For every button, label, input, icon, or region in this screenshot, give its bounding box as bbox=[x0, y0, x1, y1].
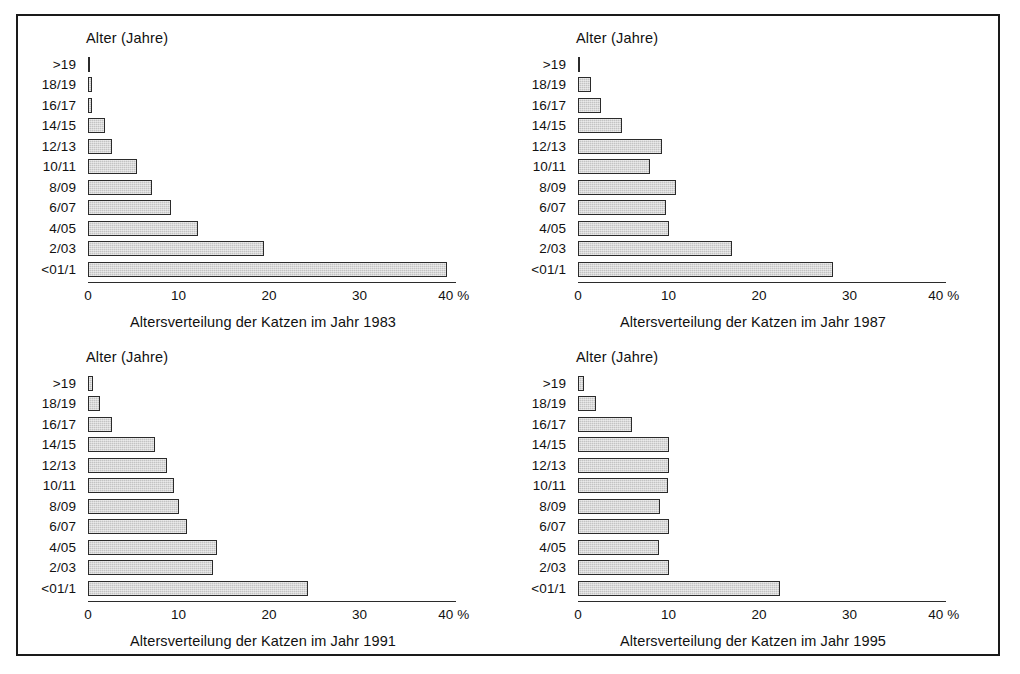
bar-row: 4/05 bbox=[18, 537, 508, 558]
bar-row: 18/19 bbox=[508, 394, 998, 415]
category-label: 10/11 bbox=[18, 160, 76, 174]
category-label: 4/05 bbox=[18, 222, 76, 236]
category-label: 16/17 bbox=[18, 418, 76, 432]
bar-row: 16/17 bbox=[508, 95, 998, 116]
category-label: 6/07 bbox=[18, 520, 76, 534]
bar bbox=[88, 139, 112, 154]
y-axis-title: Alter (Jahre) bbox=[576, 30, 658, 46]
category-label: 6/07 bbox=[508, 520, 566, 534]
category-label: 16/17 bbox=[508, 99, 566, 113]
category-label: 4/05 bbox=[18, 541, 76, 555]
bar bbox=[88, 221, 198, 236]
category-label: 6/07 bbox=[18, 201, 76, 215]
bar-row: >19 bbox=[18, 54, 508, 75]
bar-row: 18/19 bbox=[508, 75, 998, 96]
x-tick-label: 20 bbox=[751, 607, 766, 622]
category-label: 14/15 bbox=[508, 438, 566, 452]
bar-row: 4/05 bbox=[508, 218, 998, 239]
bar bbox=[88, 159, 137, 174]
x-tick-label: 30 bbox=[352, 288, 367, 303]
x-tick-label: 20 bbox=[261, 288, 276, 303]
bar bbox=[88, 376, 93, 391]
bar bbox=[578, 499, 660, 514]
bar-rows: >1918/1916/1714/1512/1310/118/096/074/05… bbox=[18, 54, 508, 280]
bar bbox=[88, 519, 187, 534]
bar-row: 18/19 bbox=[18, 75, 508, 96]
x-tick-labels: 010203040% bbox=[508, 288, 998, 306]
category-label: 10/11 bbox=[508, 160, 566, 174]
bar bbox=[88, 417, 112, 432]
x-tick-label: 30 bbox=[842, 607, 857, 622]
bar-row: 16/17 bbox=[508, 414, 998, 435]
bar-row: 12/13 bbox=[508, 455, 998, 476]
bar bbox=[578, 98, 601, 113]
bar-row: 8/09 bbox=[508, 177, 998, 198]
category-label: <01/1 bbox=[508, 263, 566, 277]
bar-row: 12/13 bbox=[18, 136, 508, 157]
x-tick-label: 20 bbox=[751, 288, 766, 303]
bar-row: 12/13 bbox=[508, 136, 998, 157]
bar-row: 14/15 bbox=[508, 116, 998, 137]
x-tick-label: 40% bbox=[928, 607, 959, 622]
bar bbox=[88, 262, 447, 277]
category-label: 8/09 bbox=[508, 181, 566, 195]
bar-row: 10/11 bbox=[508, 476, 998, 497]
chart-panel-0: Alter (Jahre)>1918/1916/1714/1512/1310/1… bbox=[18, 16, 508, 335]
bar bbox=[88, 98, 92, 113]
bar bbox=[88, 118, 105, 133]
bar bbox=[88, 458, 167, 473]
x-axis-unit-label: % bbox=[457, 607, 469, 622]
x-tick-label: 10 bbox=[171, 607, 186, 622]
bar-row: 2/03 bbox=[508, 558, 998, 579]
plot-area: >1918/1916/1714/1512/1310/118/096/074/05… bbox=[18, 373, 508, 599]
x-tick-label: 10 bbox=[661, 288, 676, 303]
category-label: 18/19 bbox=[508, 397, 566, 411]
bar-row: >19 bbox=[18, 373, 508, 394]
bar-row: 2/03 bbox=[18, 239, 508, 260]
bar bbox=[578, 519, 669, 534]
bar bbox=[578, 180, 676, 195]
x-tick-label: 40% bbox=[438, 607, 469, 622]
category-label: 14/15 bbox=[18, 438, 76, 452]
bar-row: 16/17 bbox=[18, 414, 508, 435]
bar-row: 14/15 bbox=[508, 435, 998, 456]
x-tick-value: 40 bbox=[928, 607, 943, 622]
bar-row: >19 bbox=[508, 54, 998, 75]
x-tick-labels: 010203040% bbox=[18, 607, 508, 625]
x-tick-label: 10 bbox=[661, 607, 676, 622]
bar-row: <01/1 bbox=[18, 259, 508, 280]
bar bbox=[88, 77, 92, 92]
bar bbox=[88, 540, 217, 555]
bar-row: <01/1 bbox=[508, 259, 998, 280]
bar bbox=[578, 77, 591, 92]
category-label: 8/09 bbox=[18, 181, 76, 195]
category-label: 8/09 bbox=[18, 500, 76, 514]
plot-area: >1918/1916/1714/1512/1310/118/096/074/05… bbox=[508, 373, 998, 599]
category-label: 6/07 bbox=[508, 201, 566, 215]
bar-row: 10/11 bbox=[18, 157, 508, 178]
bar-rows: >1918/1916/1714/1512/1310/118/096/074/05… bbox=[508, 54, 998, 280]
x-tick-labels: 010203040% bbox=[508, 607, 998, 625]
category-label: 14/15 bbox=[18, 119, 76, 133]
bar bbox=[88, 499, 179, 514]
bar bbox=[578, 200, 666, 215]
category-label: 10/11 bbox=[18, 479, 76, 493]
bar-rows: >1918/1916/1714/1512/1310/118/096/074/05… bbox=[18, 373, 508, 599]
category-label: 12/13 bbox=[508, 459, 566, 473]
bar bbox=[578, 376, 584, 391]
bar-row: 2/03 bbox=[18, 558, 508, 579]
category-label: 18/19 bbox=[18, 397, 76, 411]
bar bbox=[578, 560, 669, 575]
bar-row: 14/15 bbox=[18, 116, 508, 137]
x-axis-line bbox=[578, 601, 946, 603]
bar-row: 4/05 bbox=[18, 218, 508, 239]
bar-row: 10/11 bbox=[508, 157, 998, 178]
bar bbox=[578, 241, 732, 256]
x-axis-line bbox=[88, 282, 456, 284]
category-label: >19 bbox=[18, 377, 76, 391]
bar bbox=[88, 180, 152, 195]
category-label: 2/03 bbox=[508, 242, 566, 256]
bar bbox=[88, 437, 155, 452]
x-tick-label: 0 bbox=[574, 288, 582, 303]
category-label: 2/03 bbox=[18, 242, 76, 256]
